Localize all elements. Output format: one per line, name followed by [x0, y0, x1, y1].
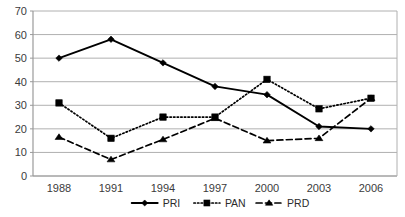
data-point: [108, 36, 114, 42]
x-tick-label: 1991: [99, 182, 123, 194]
legend-item-pri[interactable]: PRI: [132, 197, 181, 209]
legend-marker: [204, 200, 210, 206]
line-chart: 0102030405060701988199119941997200020032…: [0, 0, 405, 217]
y-tick-label: 60: [15, 29, 27, 41]
legend-marker: [142, 200, 148, 206]
data-point: [212, 83, 218, 89]
legend-label: PRI: [163, 197, 181, 209]
x-tick-label: 1988: [47, 182, 71, 194]
data-point: [160, 60, 166, 66]
legend-label: PRD: [287, 197, 310, 209]
axes: [33, 11, 397, 176]
data-point: [56, 100, 62, 106]
data-point: [55, 134, 63, 140]
y-gridlines: 010203040506070: [15, 5, 397, 182]
data-point: [264, 76, 270, 82]
data-point: [56, 55, 62, 61]
data-point: [316, 106, 322, 112]
y-tick-label: 10: [15, 146, 27, 158]
y-tick-label: 50: [15, 52, 27, 64]
data-point: [108, 135, 114, 141]
y-tick-label: 20: [15, 123, 27, 135]
x-tick-labels: 1988199119941997200020032006: [47, 182, 383, 194]
y-tick-label: 30: [15, 99, 27, 111]
x-tick-label: 2000: [255, 182, 279, 194]
x-tick-label: 1994: [151, 182, 175, 194]
x-tick-label: 1997: [203, 182, 227, 194]
legend-item-prd[interactable]: PRD: [256, 197, 310, 209]
legend-item-pan[interactable]: PAN: [194, 197, 246, 209]
legend: PRIPANPRD: [132, 197, 310, 209]
data-point: [368, 126, 374, 132]
y-tick-label: 40: [15, 76, 27, 88]
x-tick-label: 2003: [307, 182, 331, 194]
x-tick-label: 2006: [359, 182, 383, 194]
y-tick-label: 70: [15, 5, 27, 17]
data-point: [160, 114, 166, 120]
chart-canvas: 0102030405060701988199119941997200020032…: [0, 0, 405, 217]
y-tick-label: 0: [21, 170, 27, 182]
legend-label: PAN: [225, 197, 246, 209]
